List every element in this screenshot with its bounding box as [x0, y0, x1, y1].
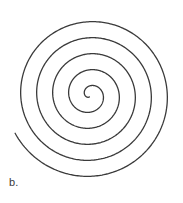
figure-background: [0, 0, 183, 203]
figure-label: b.: [9, 176, 19, 189]
spiral-figure: [0, 0, 183, 203]
figure-panel: b.: [0, 0, 183, 203]
